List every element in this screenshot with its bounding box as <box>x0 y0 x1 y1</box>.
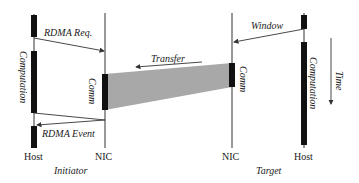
rdma-event-label: RDMA Event <box>41 128 95 139</box>
target-nic-label: NIC <box>222 151 240 162</box>
transfer-band <box>105 63 232 110</box>
initiator-host-computation-block <box>31 51 37 113</box>
rdma-event-arrow <box>37 120 105 125</box>
target-nic-comm-block <box>229 63 235 87</box>
target-comm-label: Comm <box>238 66 249 92</box>
initiator-host-block-top <box>31 15 37 37</box>
rdma-req-label: RDMA Req. <box>43 27 92 38</box>
initiator-computation-label: Computation <box>18 51 29 103</box>
transfer-label: Transfer <box>151 53 185 64</box>
initiator-nic-label: NIC <box>95 151 113 162</box>
initiator-host-block-bottom <box>31 126 37 148</box>
initiator-nic-comm-block <box>102 74 108 110</box>
initiator-group-label: Initiator <box>53 165 87 176</box>
target-host-block-top <box>301 15 307 29</box>
target-group-label: Target <box>256 165 282 176</box>
rdma-timeline-diagram: RDMA Req. Transfer Window RDMA Event Com… <box>0 0 359 183</box>
completion-line <box>34 113 105 120</box>
window-label: Window <box>251 20 284 31</box>
target-host-computation-block <box>301 42 307 145</box>
rdma-req-arrow <box>34 38 104 51</box>
initiator-host-label: Host <box>24 151 43 162</box>
target-computation-label: Computation <box>308 57 319 109</box>
target-host-label: Host <box>294 151 313 162</box>
time-label: Time <box>334 71 345 91</box>
initiator-comm-label: Comm <box>87 78 98 104</box>
